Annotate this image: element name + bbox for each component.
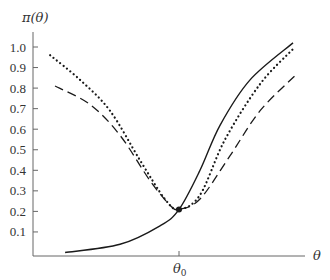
curves xyxy=(50,43,297,253)
y-axis-label: π(θ) xyxy=(21,10,49,25)
y-tick-label: 0.3 xyxy=(10,183,26,198)
x-axis-label: θ xyxy=(313,248,321,263)
y-tick-label: 0.8 xyxy=(10,81,26,96)
y-tick-label: 0.6 xyxy=(10,122,27,137)
y-axis: π(θ) 1.00.90.80.70.60.50.40.30.20.1 xyxy=(10,10,49,256)
y-ticks: 1.00.90.80.70.60.50.40.30.20.1 xyxy=(10,40,38,240)
y-tick-label: 1.0 xyxy=(10,40,26,55)
theta0-subscript: 0 xyxy=(181,268,187,278)
y-tick-label: 0.7 xyxy=(10,101,27,116)
x-axis: θ0 θ xyxy=(33,248,321,278)
curve-solid xyxy=(65,43,293,253)
y-tick-label: 0.2 xyxy=(10,204,26,219)
theta0-symbol: θ xyxy=(173,261,181,276)
y-tick-label: 0.1 xyxy=(10,224,26,239)
y-tick-label: 0.5 xyxy=(10,142,26,157)
curve-dashed xyxy=(55,74,297,210)
y-tick-label: 0.9 xyxy=(10,60,26,75)
chart: π(θ) 1.00.90.80.70.60.50.40.30.20.1 θ0 θ xyxy=(0,0,330,280)
y-tick-label: 0.4 xyxy=(10,163,27,178)
theta0-label: θ0 xyxy=(173,261,187,278)
intersection-point xyxy=(176,207,182,213)
